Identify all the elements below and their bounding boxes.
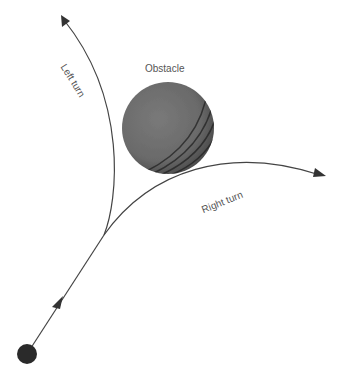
left-turn-path bbox=[64, 20, 114, 235]
approach-path bbox=[27, 235, 104, 354]
obstacle-label: Obstacle bbox=[145, 63, 184, 74]
direction-arrow-icon bbox=[52, 296, 63, 309]
start-point bbox=[17, 344, 37, 364]
right-turn-arrow-icon bbox=[313, 168, 326, 177]
obstacle-avoidance-diagram: Obstacle Left turn Right turn bbox=[0, 0, 337, 376]
diagram-canvas bbox=[0, 0, 337, 376]
right-turn-path bbox=[104, 162, 320, 235]
obstacle-sphere bbox=[122, 82, 227, 178]
